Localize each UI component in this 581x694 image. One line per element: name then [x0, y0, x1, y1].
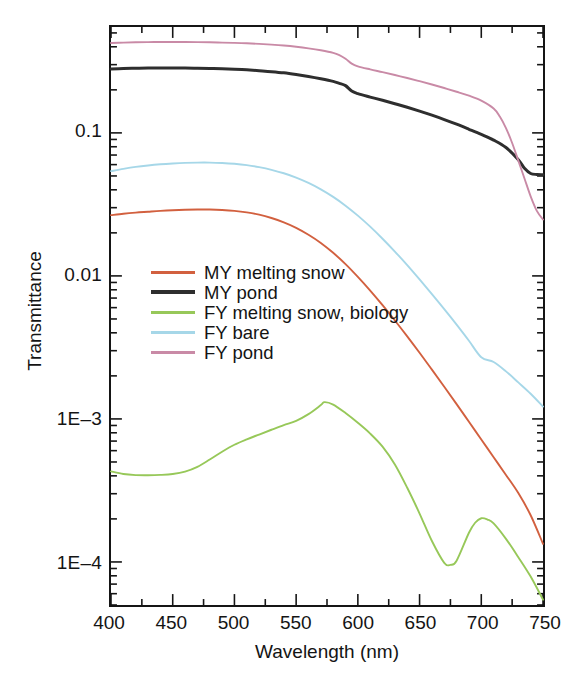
- legend-color-swatch: [151, 331, 195, 334]
- legend-color-swatch: [151, 290, 195, 294]
- legend-item-label: FY pond: [204, 343, 274, 362]
- figure-caption: [18, 681, 563, 694]
- legend-color-swatch: [151, 311, 195, 314]
- legend-item: FY pond: [151, 342, 451, 362]
- chart-legend: MY melting snowMY pondFY melting snow, b…: [151, 262, 451, 362]
- x-tick-label: 500: [199, 612, 269, 634]
- x-tick-label: 450: [136, 612, 206, 634]
- legend-item-label: FY bare: [204, 323, 269, 342]
- legend-item: FY melting snow, biology: [151, 302, 451, 322]
- series-line: [111, 402, 543, 599]
- x-tick-label: 650: [385, 612, 455, 634]
- x-tick-label: 700: [448, 612, 518, 634]
- y-tick-label: 0.01: [64, 264, 102, 286]
- y-tick-label: 1E–3: [57, 408, 102, 430]
- x-tick-label: 400: [74, 612, 144, 634]
- legend-item-label: MY pond: [204, 283, 278, 302]
- series-line: [111, 210, 543, 544]
- legend-item-label: FY melting snow, biology: [204, 303, 408, 322]
- legend-item: FY bare: [151, 322, 451, 342]
- y-tick-label: 1E–4: [57, 552, 102, 574]
- legend-item-label: MY melting snow: [204, 263, 345, 282]
- x-axis-title: Wavelength (nm): [109, 641, 545, 663]
- legend-color-swatch: [151, 271, 195, 274]
- x-tick-label: 550: [261, 612, 331, 634]
- figure-root: 0.10.011E–31E–4 Transmittance 4004505005…: [0, 0, 581, 694]
- x-tick-label: 600: [323, 612, 393, 634]
- legend-item: MY pond: [151, 282, 451, 302]
- x-tick-label: 750: [510, 612, 580, 634]
- y-axis-title: Transmittance: [24, 181, 46, 441]
- legend-color-swatch: [151, 351, 195, 354]
- legend-item: MY melting snow: [151, 262, 451, 282]
- series-line: [111, 68, 543, 175]
- y-tick-label: 0.1: [75, 120, 102, 142]
